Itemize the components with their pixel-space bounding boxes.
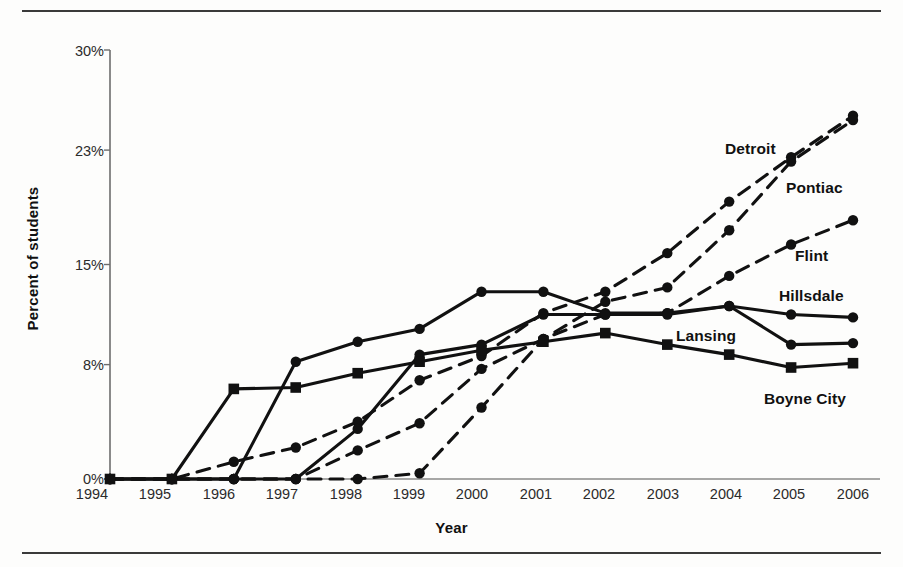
data-point-marker (848, 215, 858, 225)
data-point-marker (848, 358, 859, 369)
data-point-marker (600, 328, 611, 339)
data-point-marker (229, 384, 240, 395)
data-point-marker (538, 309, 548, 319)
data-point-marker (414, 418, 424, 428)
data-point-marker (105, 474, 116, 485)
data-point-marker (476, 364, 486, 374)
data-point-marker (291, 357, 301, 367)
x-tick-label-1998: 1998 (315, 486, 377, 502)
series-label-detroit: Detroit (725, 140, 776, 158)
data-point-marker (538, 336, 549, 347)
series-lines (110, 116, 853, 479)
data-point-marker (476, 345, 487, 356)
data-point-marker (786, 156, 796, 166)
x-tick-label-1995: 1995 (124, 486, 186, 502)
data-point-marker (414, 375, 424, 385)
series-line-hillsdale (110, 292, 853, 479)
series-line-detroit (110, 116, 853, 479)
chart-figure: 0% 8% 15% 23% 30% 1994 1995 1996 1997 19… (0, 0, 903, 567)
data-point-marker (600, 297, 610, 307)
data-point-marker (229, 457, 239, 467)
x-tick-label-1999: 1999 (378, 486, 440, 502)
data-point-marker (848, 115, 858, 125)
data-point-marker (414, 356, 425, 367)
data-point-marker (786, 309, 796, 319)
data-point-marker (600, 287, 610, 297)
data-point-marker (724, 349, 735, 360)
data-point-marker (229, 474, 239, 484)
x-tick-label-1997: 1997 (251, 486, 313, 502)
data-point-marker (662, 282, 672, 292)
y-axis-ticks (104, 50, 110, 479)
data-point-marker (353, 424, 363, 434)
x-tick-label-2000: 2000 (441, 486, 503, 502)
x-tick-label-2004: 2004 (695, 486, 757, 502)
data-point-marker (724, 271, 734, 281)
y-axis-title: Percent of students (24, 164, 41, 354)
data-point-marker (538, 287, 548, 297)
y-tick-label-15: 15% (44, 257, 104, 273)
data-point-marker (786, 362, 797, 373)
data-point-marker (476, 287, 486, 297)
data-point-marker (352, 368, 363, 379)
y-tick-label-8: 8% (44, 357, 104, 373)
data-point-marker (662, 339, 673, 350)
series-label-hillsdale: Hillsdale (779, 287, 844, 305)
series-label-lansing: Lansing (676, 327, 736, 345)
data-point-marker (291, 442, 301, 452)
data-point-marker (662, 248, 672, 258)
data-point-marker (724, 225, 734, 235)
series-label-boyne-city: Boyne City (764, 390, 846, 408)
data-point-marker (167, 474, 178, 485)
series-line-pontiac (110, 120, 853, 479)
y-tick-label-23: 23% (44, 143, 104, 159)
data-point-marker (786, 339, 796, 349)
x-tick-label-2003: 2003 (632, 486, 694, 502)
data-point-marker (290, 382, 301, 393)
series-label-flint: Flint (795, 247, 828, 265)
data-point-marker (291, 474, 301, 484)
data-point-marker (662, 309, 672, 319)
data-point-marker (414, 468, 424, 478)
data-point-marker (414, 324, 424, 334)
data-point-marker (724, 301, 734, 311)
data-point-marker (848, 312, 858, 322)
data-point-marker (600, 309, 610, 319)
x-tick-label-1996: 1996 (188, 486, 250, 502)
x-axis-title: Year (0, 519, 903, 536)
series-markers (105, 111, 859, 485)
data-point-marker (353, 474, 363, 484)
y-tick-label-0: 0% (44, 471, 104, 487)
axes (104, 50, 880, 479)
data-point-marker (848, 338, 858, 348)
data-point-marker (476, 402, 486, 412)
series-line-lansing (110, 306, 853, 479)
data-point-marker (353, 445, 363, 455)
data-point-marker (724, 196, 734, 206)
data-point-marker (353, 337, 363, 347)
x-tick-label-2002: 2002 (568, 486, 630, 502)
x-tick-label-2005: 2005 (758, 486, 820, 502)
x-tick-label-2006: 2006 (822, 486, 884, 502)
y-tick-label-30: 30% (44, 43, 104, 59)
x-tick-label-2001: 2001 (505, 486, 567, 502)
x-tick-label-1994: 1994 (61, 486, 123, 502)
series-label-pontiac: Pontiac (786, 179, 843, 197)
line-chart-plot (0, 0, 903, 567)
